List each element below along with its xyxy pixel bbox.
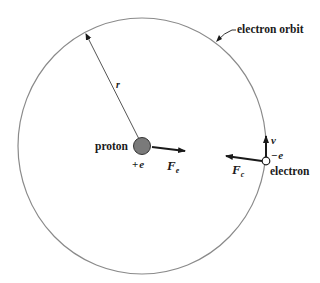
electron-charge: −e — [271, 149, 283, 161]
proton-circle — [134, 138, 151, 155]
proton-label: proton — [95, 140, 129, 153]
velocity-label: v — [271, 134, 276, 146]
electric-force-label: Fe — [166, 158, 180, 175]
bohr-atom-diagram: r proton +e Fe electron orbit v Fc −e el… — [0, 0, 320, 283]
radius-label: r — [116, 79, 120, 90]
centripetal-force-arrow — [226, 156, 262, 161]
electron-circle — [262, 157, 270, 165]
orbit-label: electron orbit — [237, 23, 304, 35]
centripetal-force-label: Fc — [231, 162, 245, 179]
orbit-label-leader-tip — [216, 35, 222, 42]
proton-charge: +e — [132, 158, 144, 170]
radius-arrow — [86, 34, 141, 143]
electric-force-arrow — [152, 147, 185, 151]
electron-label: electron — [270, 165, 310, 177]
